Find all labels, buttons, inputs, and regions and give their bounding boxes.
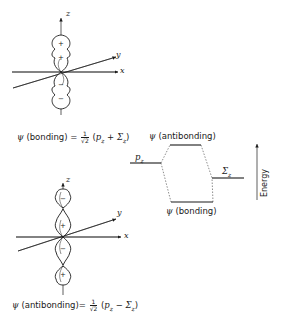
lobe-sign: +: [58, 54, 64, 62]
x-axis-label: x: [120, 66, 125, 75]
z-axis-label: z: [66, 175, 70, 184]
lobe-sign: +: [60, 222, 66, 230]
y-axis-label: y: [116, 50, 121, 59]
z-axis-label: z: [66, 9, 70, 18]
sigma-level-label: Σz: [222, 166, 231, 178]
psi-symbol: ψ: [149, 131, 156, 141]
antibonding-orbital-figure: [16, 183, 121, 295]
fraction: 1√2: [90, 299, 98, 312]
mo-energy-diagram: [130, 144, 257, 202]
lobe-sign: −: [60, 245, 66, 253]
psi-symbol: ψ: [166, 206, 173, 216]
antibonding-equation: ψ (antibonding)= 1√2 (pz − Σz): [12, 299, 138, 312]
psi-symbol: ψ: [12, 300, 19, 310]
psi-symbol: ψ: [17, 132, 24, 142]
negative-lobe-lower: [52, 72, 70, 109]
lobe-sign: +: [58, 40, 64, 48]
energy-axis-label: Energy: [260, 169, 269, 197]
lobe-sign: −: [60, 195, 66, 203]
lobe-sign: −: [58, 81, 64, 89]
y-axis-label: y: [117, 208, 122, 217]
antibonding-level-label: ψ (antibonding): [149, 131, 216, 141]
lobe-sign: +: [60, 271, 66, 279]
bonding-equation: ψ (bonding) = 1√2 (pz + Σz): [17, 131, 129, 144]
fraction: 1√2: [81, 131, 89, 144]
pz-level-label: pz: [135, 152, 144, 164]
lobe-sign: −: [58, 95, 64, 103]
bonding-level-label: ψ (bonding): [166, 206, 217, 216]
bonding-orbital-figure: [12, 18, 118, 115]
x-axis-label: x: [124, 231, 129, 240]
